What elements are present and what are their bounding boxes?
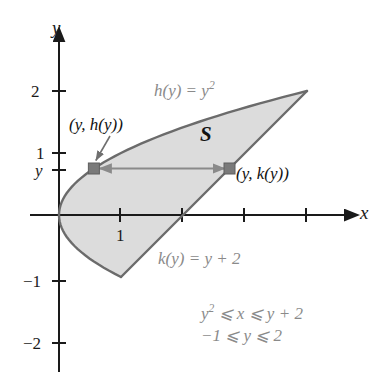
y-axis-label: y bbox=[52, 18, 60, 37]
y-tick-label-minus-2: −2 bbox=[23, 335, 41, 352]
lower-curve-label: k(y) = y + 2 bbox=[158, 250, 240, 267]
upper-curve-label-exponent: 2 bbox=[209, 79, 215, 92]
left-sample-point-marker bbox=[88, 163, 99, 174]
inequality-line-2: −1 ⩽ y ⩽ 2 bbox=[201, 327, 282, 344]
right-point-label: (y, k(y)) bbox=[236, 165, 289, 182]
y-tick-label-minus-1: −1 bbox=[23, 273, 41, 290]
y-tick-label-sample: y bbox=[35, 162, 43, 179]
figure-canvas: x y 2 1 y −1 −2 1 h(y) = y2 k(y) = y + 2… bbox=[0, 0, 389, 381]
inequality-1-base-post: ⩽ x ⩽ y + 2 bbox=[214, 304, 303, 323]
left-point-label: (y, h(y)) bbox=[69, 116, 123, 133]
upper-curve-label: h(y) = y2 bbox=[154, 80, 215, 99]
y-tick-label-2: 2 bbox=[31, 83, 40, 100]
inequality-line-1: y2 ⩽ x ⩽ y + 2 bbox=[201, 303, 303, 322]
y-tick-label-1: 1 bbox=[36, 145, 45, 162]
inequality-1-base-pre: y bbox=[201, 304, 209, 323]
diagram-svg bbox=[0, 0, 389, 381]
x-axis-label: x bbox=[360, 203, 368, 222]
upper-curve-label-base: h(y) = y bbox=[154, 81, 209, 100]
right-sample-point-marker bbox=[224, 163, 235, 174]
x-tick-label-1: 1 bbox=[116, 227, 125, 244]
region-label-S: S bbox=[200, 124, 212, 145]
